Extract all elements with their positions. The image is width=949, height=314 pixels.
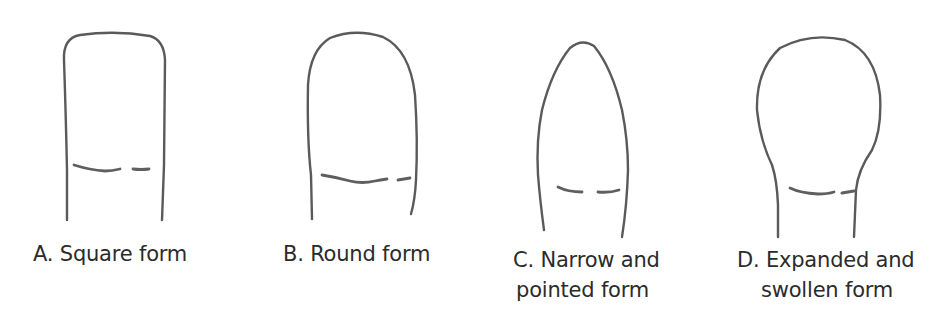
nail-forms-figure: A. Square form B. Round form C. Narrow a…: [0, 0, 949, 314]
label-line: D. Expanded and: [737, 245, 915, 275]
label-line: C. Narrow and: [513, 245, 660, 275]
nail-shape-square: [64, 33, 165, 220]
nail-shape-round: [308, 33, 417, 219]
label-line: A. Square form: [33, 239, 187, 269]
label-line: swollen form: [737, 275, 915, 305]
label-line: B. Round form: [283, 239, 430, 269]
label-square-form: A. Square form: [33, 239, 187, 269]
label-swollen-form: D. Expanded and swollen form: [737, 245, 915, 305]
label-pointed-form: C. Narrow and pointed form: [513, 245, 660, 305]
label-round-form: B. Round form: [283, 239, 430, 269]
label-line: pointed form: [513, 275, 660, 305]
nail-shape-swollen: [757, 37, 880, 237]
nail-shape-pointed: [538, 42, 629, 237]
